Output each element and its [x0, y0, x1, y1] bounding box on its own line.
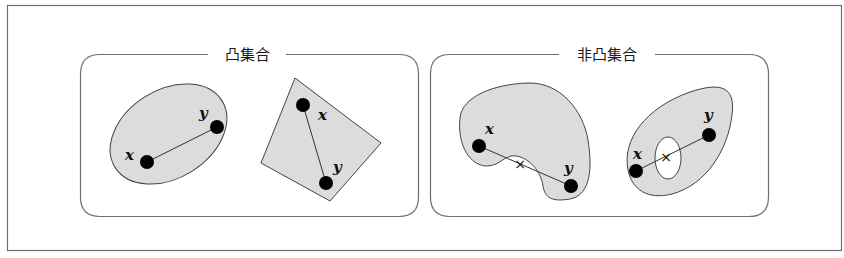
point-y: [702, 128, 716, 142]
panel-nonconvex-title: 非凸集合: [577, 46, 637, 64]
panel-convex-title: 凸集合: [225, 46, 270, 64]
label-x: x: [124, 146, 135, 164]
point-x: [629, 164, 643, 178]
outside-marker-cross: ×: [514, 156, 526, 172]
label-y: y: [703, 106, 714, 124]
label-y: y: [332, 158, 343, 176]
label-x: x: [632, 145, 643, 163]
point-x: [472, 139, 486, 153]
point-x: [140, 155, 154, 169]
outside-marker-cross: ×: [660, 149, 672, 165]
point-y: [210, 120, 224, 134]
label-x: x: [484, 120, 495, 138]
point-x: [296, 98, 310, 112]
label-y: y: [198, 104, 209, 122]
label-x: x: [317, 106, 328, 124]
point-y: [319, 176, 333, 190]
point-y: [564, 179, 578, 193]
convex-vs-nonconvex-diagram: 凸集合 x y x y 非凸集合 x: [0, 0, 844, 258]
label-y: y: [563, 159, 574, 177]
